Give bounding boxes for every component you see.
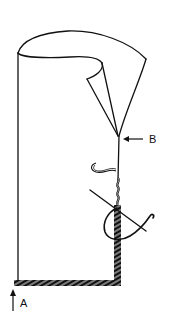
arrow-a-icon [10, 289, 16, 311]
arrow-b-icon [123, 136, 143, 142]
label-a: A [20, 297, 28, 309]
fabric-outline [18, 31, 146, 283]
label-b: B [149, 133, 156, 145]
thread-loop [104, 208, 153, 239]
bottom-seam-stitching [14, 280, 121, 286]
right-seam-stitching [114, 178, 121, 285]
sewing-diagram: B A [0, 0, 171, 326]
thread-tail [92, 163, 117, 172]
